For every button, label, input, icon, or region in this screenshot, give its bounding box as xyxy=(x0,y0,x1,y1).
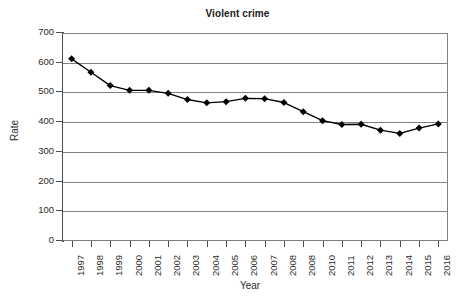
y-axis-tick-label: 100 xyxy=(2,205,54,215)
gridline xyxy=(63,182,447,183)
x-axis-tick xyxy=(72,241,73,247)
y-axis-tick xyxy=(56,121,63,122)
x-axis-tick xyxy=(149,241,150,247)
y-axis-tick xyxy=(56,181,63,182)
y-axis-tick-label: 500 xyxy=(2,86,54,96)
x-axis-tick xyxy=(91,241,92,247)
x-axis-tick xyxy=(110,241,111,247)
x-axis-tick-label: 2004 xyxy=(211,255,221,276)
y-axis-tick-label: 400 xyxy=(2,116,54,126)
x-axis-tick xyxy=(187,241,188,247)
x-axis-tick xyxy=(245,241,246,247)
x-axis-tick xyxy=(303,241,304,247)
y-axis-tick xyxy=(56,151,63,152)
x-axis-tick-label: 2002 xyxy=(172,255,182,276)
x-axis-tick xyxy=(400,241,401,247)
x-axis-tick xyxy=(130,241,131,247)
y-axis-tick-label: 200 xyxy=(2,176,54,186)
gridline xyxy=(63,92,447,93)
x-axis-tick xyxy=(284,241,285,247)
x-axis-tick xyxy=(342,241,343,247)
x-axis-tick-label: 2003 xyxy=(191,255,201,276)
x-axis-tick-label: 2015 xyxy=(423,255,433,276)
x-axis-tick-label: 1998 xyxy=(95,255,105,276)
x-axis-tick-label: 1999 xyxy=(114,255,124,276)
x-axis-tick xyxy=(361,241,362,247)
x-axis-tick-label: 2013 xyxy=(384,255,394,276)
y-axis-tick xyxy=(56,32,63,33)
x-axis-tick-label: 2012 xyxy=(365,255,375,276)
x-axis-tick xyxy=(226,241,227,247)
x-axis-tick-label: 2010 xyxy=(327,255,337,276)
x-axis-tick-label: 2011 xyxy=(346,256,356,276)
y-axis-labels: 0100200300400500600700 xyxy=(0,0,54,303)
violent-crime-chart: Violent crime Rate 010020030040050060070… xyxy=(0,0,475,303)
x-axis-tick xyxy=(168,241,169,247)
y-axis-tick-label: 0 xyxy=(2,235,54,245)
y-axis-tick xyxy=(56,91,63,92)
plot-area xyxy=(62,33,448,241)
x-axis-tick xyxy=(265,241,266,247)
x-axis-tick-label: 2005 xyxy=(230,255,240,276)
x-axis-tick xyxy=(207,241,208,247)
chart-title: Violent crime xyxy=(0,8,475,20)
x-axis-title: Year xyxy=(160,280,340,291)
x-axis-tick xyxy=(323,241,324,247)
gridline xyxy=(63,152,447,153)
x-axis-tick xyxy=(380,241,381,247)
x-axis-tick xyxy=(438,241,439,247)
x-axis-tick-label: 2008 xyxy=(288,255,298,276)
x-axis-tick-label: 2000 xyxy=(134,255,144,276)
x-axis-tick-label: 1997 xyxy=(76,255,86,276)
y-axis-tick-label: 300 xyxy=(2,146,54,156)
gridline xyxy=(63,63,447,64)
y-axis-tick xyxy=(56,62,63,63)
y-axis-tick-label: 600 xyxy=(2,57,54,67)
gridline xyxy=(63,211,447,212)
x-axis-tick-label: 2007 xyxy=(269,255,279,276)
y-axis-tick xyxy=(56,240,63,241)
gridline xyxy=(63,122,447,123)
y-axis-tick xyxy=(56,210,63,211)
x-axis-tick xyxy=(419,241,420,247)
y-axis-tick-label: 700 xyxy=(2,27,54,37)
x-axis-tick-label: 2016 xyxy=(442,255,452,276)
x-axis-tick-label: 2014 xyxy=(404,255,414,276)
x-axis-tick-label: 2001 xyxy=(153,255,163,276)
x-axis-tick-label: 2006 xyxy=(249,255,259,276)
x-axis-tick-label: 2008 xyxy=(307,255,317,276)
